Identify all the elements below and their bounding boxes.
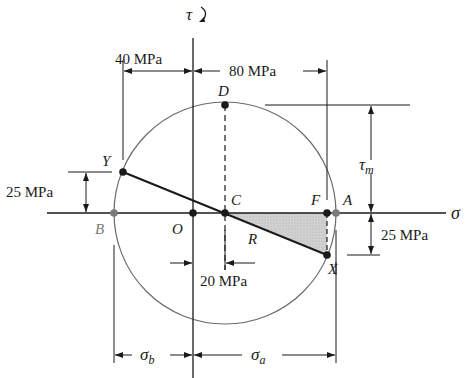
label-x: X bbox=[327, 261, 338, 277]
sigma-a-subscript: a bbox=[259, 353, 265, 367]
label-f: F bbox=[310, 192, 321, 208]
label-o: O bbox=[172, 221, 183, 237]
point-f bbox=[323, 209, 331, 217]
sigma-a-label: σa bbox=[251, 345, 265, 367]
label-d: D bbox=[217, 83, 229, 99]
point-c bbox=[221, 209, 229, 217]
sigma-b-subscript: b bbox=[148, 353, 154, 367]
dim-40-mpa-label: 40 MPa bbox=[115, 51, 162, 67]
sigma-axis-label: σ bbox=[451, 203, 461, 223]
label-a: A bbox=[342, 192, 353, 208]
mohr-circle-diagram: τ σ D Y B O C F A X R 40 MPa 80 MPa 25 M… bbox=[0, 0, 472, 378]
point-y bbox=[119, 168, 127, 176]
clockwise-arrowhead-icon bbox=[199, 17, 205, 22]
point-x bbox=[323, 251, 331, 259]
label-r: R bbox=[247, 231, 257, 247]
label-b: B bbox=[95, 221, 104, 237]
point-a bbox=[332, 209, 340, 217]
label-y: Y bbox=[102, 153, 112, 169]
point-b bbox=[110, 209, 118, 217]
label-c: C bbox=[231, 192, 242, 208]
tau-m-label: τm bbox=[359, 155, 374, 177]
sigma-b-label: σb bbox=[140, 345, 154, 367]
dim-25-mpa-left-label: 25 MPa bbox=[6, 184, 53, 200]
tau-m-subscript: m bbox=[365, 163, 374, 177]
dim-25-mpa-right-label: 25 MPa bbox=[381, 227, 428, 243]
point-d bbox=[221, 101, 229, 109]
dim-20-mpa-label: 20 MPa bbox=[200, 273, 247, 289]
point-o bbox=[189, 209, 197, 217]
dim-80-mpa-label: 80 MPa bbox=[229, 63, 276, 79]
tau-axis-label: τ bbox=[186, 5, 193, 24]
